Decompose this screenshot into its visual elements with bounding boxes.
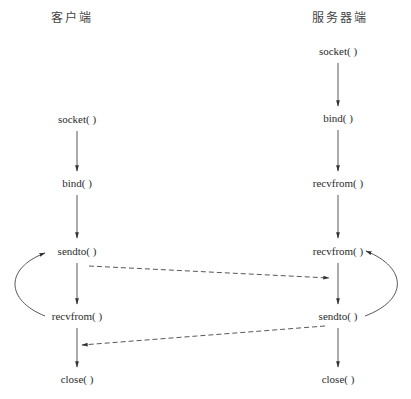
request-dashed-arrow [89,266,329,278]
server-step-recvfrom: recvfrom( ) [313,176,363,190]
server-step-recvfrom-loop: recvfrom( ) [313,244,363,258]
server-title: 服务器端 [312,11,368,25]
server-loop-arrow [365,251,397,316]
connector-layer [0,0,411,399]
client-step-sendto: sendto( ) [58,244,97,258]
udp-flow-diagram: 客户端 服务器端 socket( ) bind( ) sendto( ) rec… [0,0,411,399]
client-step-socket: socket( ) [58,112,96,126]
client-step-close: close( ) [61,372,94,386]
server-step-socket: socket( ) [319,44,357,58]
client-title: 客户端 [51,11,93,25]
server-step-close: close( ) [322,372,355,386]
client-step-recvfrom: recvfrom( ) [52,309,102,323]
server-step-bind: bind( ) [323,111,353,125]
server-step-sendto: sendto( ) [319,309,358,323]
message-arrows [82,266,329,345]
client-loop-arrow [15,253,45,316]
client-step-bind: bind( ) [62,176,92,190]
reply-dashed-arrow [82,326,325,345]
